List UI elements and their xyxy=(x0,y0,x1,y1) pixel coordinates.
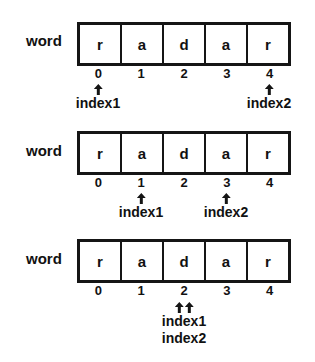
pointer-index1-index2: index1 index2 xyxy=(162,302,206,347)
pointer-label: index2 xyxy=(162,330,206,347)
array-cell: a xyxy=(122,242,164,280)
index-number: 1 xyxy=(120,284,163,298)
index-number: 0 xyxy=(77,284,120,298)
index-number: 4 xyxy=(248,284,291,298)
panel-final: word r a d a r 0 1 2 3 4 index1 index2 xyxy=(0,0,315,362)
variable-label: word xyxy=(26,251,62,266)
array-cell: r xyxy=(248,242,288,280)
up-arrow-icon xyxy=(174,302,183,313)
up-arrow-icon xyxy=(184,302,193,313)
index-number: 3 xyxy=(205,284,248,298)
array-cell: a xyxy=(206,242,248,280)
index-number: 2 xyxy=(163,284,206,298)
array-cell: d xyxy=(164,242,206,280)
pointer-label: index1 xyxy=(162,313,206,330)
array-cell: r xyxy=(80,242,122,280)
index-row: 0 1 2 3 4 xyxy=(77,284,291,298)
char-array: r a d a r xyxy=(77,239,291,283)
